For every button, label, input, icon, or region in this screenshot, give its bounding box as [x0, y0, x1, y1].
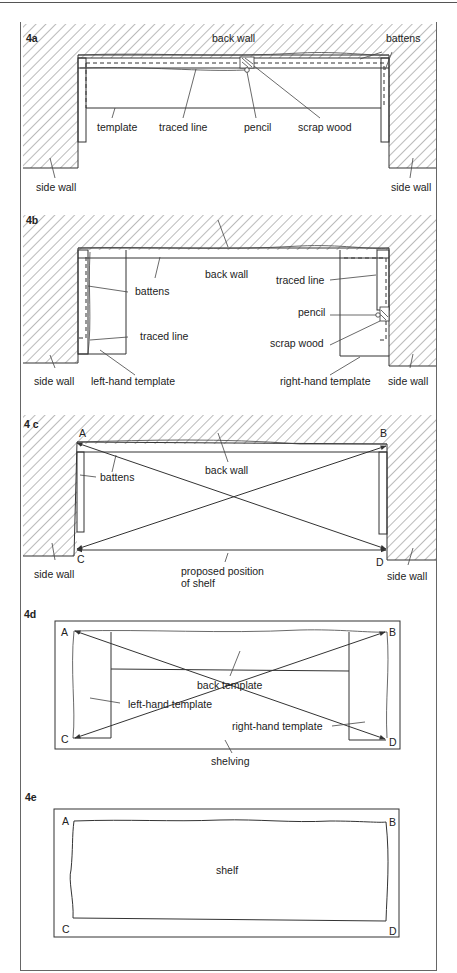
- label-back-template: back template: [197, 679, 263, 691]
- label-pencil: pencil: [298, 306, 325, 318]
- label-traced-line-left: traced line: [140, 330, 189, 342]
- label-left-hand-template: left-hand template: [91, 375, 175, 387]
- label-side-wall-left: side wall: [34, 375, 74, 387]
- label-side-wall-right: side wall: [388, 375, 428, 387]
- label-traced-line: traced line: [159, 121, 208, 133]
- label-battens: battens: [386, 32, 420, 44]
- label-pencil: pencil: [244, 121, 271, 133]
- corner-b: B: [389, 816, 396, 828]
- corner-c: C: [77, 553, 85, 565]
- panel-4d: 4d A B C D back template left-hand templ…: [0, 610, 457, 790]
- corner-c: C: [62, 923, 70, 935]
- corner-a: A: [62, 815, 69, 827]
- label-back-wall: back wall: [205, 268, 248, 280]
- panel-4a: 4a back wall battens template traced lin…: [0, 0, 457, 200]
- label-proposed-position: proposed position: [181, 565, 264, 577]
- label-template: template: [97, 121, 137, 133]
- corner-b: B: [389, 626, 396, 638]
- label-battens: battens: [135, 285, 169, 297]
- label-battens: battens: [100, 471, 134, 483]
- panel-id-4a: 4a: [26, 32, 38, 44]
- corner-a: A: [61, 626, 68, 638]
- panel-4e: 4e A B C D shelf: [0, 780, 457, 973]
- label-side-wall-right: side wall: [387, 570, 427, 582]
- label-side-wall-left: side wall: [34, 568, 74, 580]
- corner-d: D: [376, 556, 384, 568]
- label-back-wall: back wall: [212, 32, 255, 44]
- panel-id-4b: 4b: [26, 214, 38, 226]
- corner-a: A: [79, 427, 86, 439]
- panel-id-4c: 4 c: [24, 418, 39, 430]
- panel-4b: 4b back wall traced line battens pencil …: [0, 190, 457, 400]
- corner-c: C: [61, 733, 69, 745]
- panel-4c: 4 c A B C D back wall battens side wall …: [0, 400, 457, 610]
- label-of-shelf: of shelf: [181, 577, 215, 589]
- label-back-wall: back wall: [205, 464, 248, 476]
- panel-id-4d: 4d: [24, 608, 36, 620]
- label-traced-line-right: traced line: [276, 274, 325, 286]
- label-right-hand-template: right-hand template: [232, 720, 323, 732]
- label-right-hand-template: right-hand template: [280, 375, 371, 387]
- panel-id-4e: 4e: [25, 791, 37, 803]
- corner-d: D: [389, 925, 397, 937]
- label-shelving: shelving: [211, 755, 250, 767]
- label-shelf: shelf: [216, 864, 238, 876]
- label-left-hand-template: left-hand template: [128, 698, 212, 710]
- label-scrap-wood: scrap wood: [270, 337, 324, 349]
- label-scrap-wood: scrap wood: [298, 121, 352, 133]
- corner-d: D: [389, 736, 397, 748]
- corner-b: B: [380, 427, 387, 439]
